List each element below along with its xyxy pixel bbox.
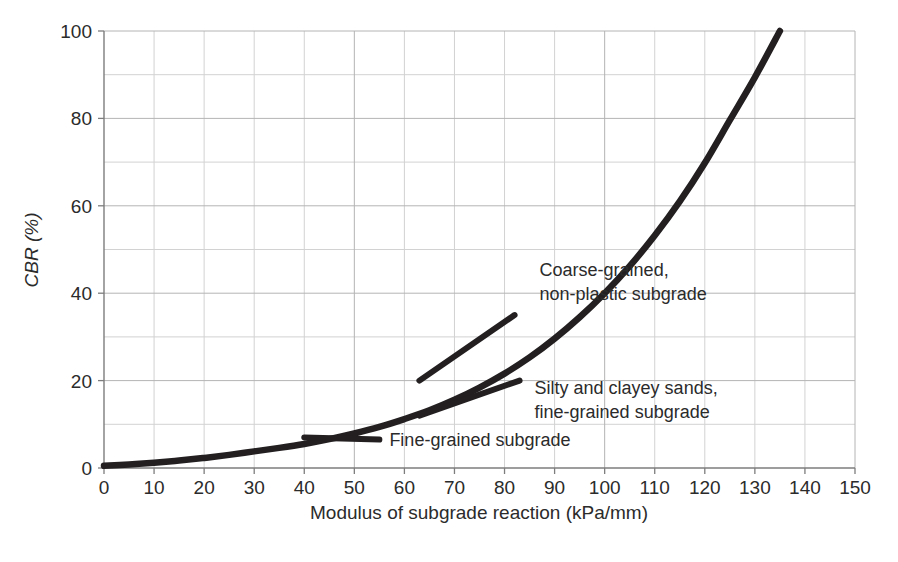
y-tick-label: 20 [71, 371, 92, 392]
y-tick-label: 80 [71, 108, 92, 129]
annotation-label-silty-clayey: Silty and clayey sands, [535, 378, 718, 398]
x-tick-label: 30 [244, 477, 265, 498]
y-tick-label: 0 [81, 458, 92, 479]
x-tick-label: 40 [294, 477, 315, 498]
x-tick-label: 150 [839, 477, 871, 498]
annotation-label-fine-grained: Fine-grained subgrade [389, 430, 570, 450]
y-tick-label: 60 [71, 196, 92, 217]
x-tick-label: 140 [789, 477, 821, 498]
x-tick-label: 100 [589, 477, 621, 498]
chart-container: 0102030405060708090100110120130140150 02… [0, 0, 898, 562]
x-tick-label: 0 [99, 477, 110, 498]
x-tick-label: 10 [143, 477, 164, 498]
y-axis-title: CBR (%) [21, 213, 42, 288]
x-tick-label: 20 [194, 477, 215, 498]
y-tick-label: 40 [71, 283, 92, 304]
x-tick-label: 80 [494, 477, 515, 498]
annotation-label-coarse-grained: Coarse-grained, [540, 260, 669, 280]
x-tick-label: 90 [544, 477, 565, 498]
x-tick-label: 130 [739, 477, 771, 498]
y-tick-label: 100 [60, 21, 92, 42]
x-tick-label: 50 [344, 477, 365, 498]
x-axis-title: Modulus of subgrade reaction (kPa/mm) [310, 502, 648, 523]
annotation-label-coarse-grained: non-plastic subgrade [540, 284, 707, 304]
cbr-modulus-chart: 0102030405060708090100110120130140150 02… [0, 0, 898, 562]
x-tick-label: 70 [444, 477, 465, 498]
annotation-label-silty-clayey: fine-grained subgrade [535, 402, 710, 422]
x-tick-label: 110 [640, 477, 670, 498]
x-tick-label: 60 [394, 477, 415, 498]
x-tick-label: 120 [689, 477, 721, 498]
leader-line-fine-grained [304, 437, 379, 439]
